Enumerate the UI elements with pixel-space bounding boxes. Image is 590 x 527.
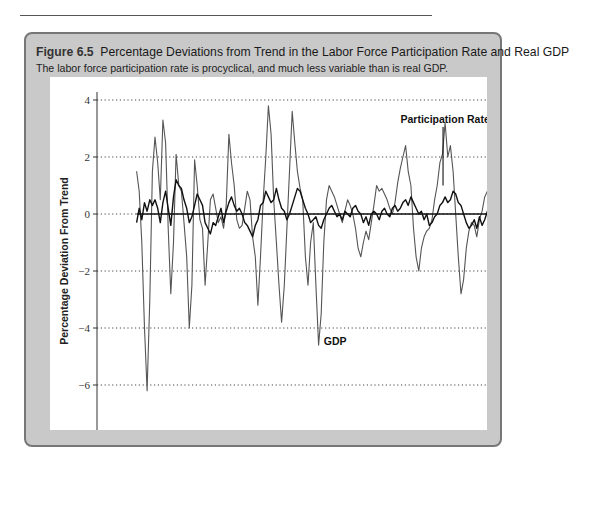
y-tick-label: −2 bbox=[78, 265, 90, 277]
page-top-rule bbox=[20, 15, 432, 16]
y-tick-label: 4 bbox=[85, 94, 91, 106]
y-axis-title: Percentage Deviation From Trend bbox=[58, 177, 70, 344]
y-tick-label: −6 bbox=[78, 379, 90, 391]
series-line-participation-rate bbox=[137, 180, 487, 237]
axes: 420−2−4−6−819401950196019701980199020002… bbox=[58, 92, 487, 430]
figure-caption: Figure 6.5 Percentage Deviations from Tr… bbox=[36, 44, 496, 74]
y-tick-label: −4 bbox=[78, 322, 90, 334]
plot-panel: 420−2−4−6−819401950196019701980199020002… bbox=[50, 77, 487, 430]
series-lines bbox=[137, 106, 487, 391]
y-tick-label: 0 bbox=[85, 208, 91, 220]
figure-title: Figure 6.5 Percentage Deviations from Tr… bbox=[36, 44, 496, 60]
y-tick-label: 2 bbox=[85, 151, 91, 163]
figure-number: Figure 6.5 bbox=[36, 45, 94, 59]
series-line-gdp bbox=[137, 106, 487, 391]
figure-title-text: Percentage Deviations from Trend in the … bbox=[100, 45, 569, 59]
line-chart: 420−2−4−6−819401950196019701980199020002… bbox=[50, 77, 487, 430]
series-label-gdp: GDP bbox=[324, 335, 347, 347]
figure-subtitle: The labor force participation rate is pr… bbox=[36, 62, 496, 74]
series-label-participation-rate: Participation Rate bbox=[401, 113, 487, 125]
